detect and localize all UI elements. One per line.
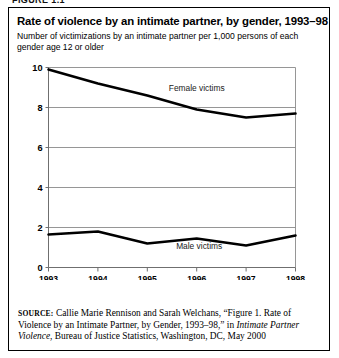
figure-number-header: FIGURE 1.1 [12, 0, 65, 3]
x-tick-label: 1998 [286, 274, 305, 280]
x-tick-label: 1994 [88, 274, 107, 280]
x-tick-label: 1993 [39, 274, 58, 280]
chart-plot-area: 0246810 199319941995199619971998 Female … [18, 58, 318, 280]
y-tick-label: 0 [37, 263, 42, 273]
chart-series-group [49, 70, 296, 246]
x-tick-label: 1996 [187, 274, 206, 280]
x-tick-label: 1995 [138, 274, 157, 280]
chart-title: Rate of violence by an intimate partner,… [17, 14, 321, 28]
y-tick-label: 2 [37, 223, 42, 233]
chart-x-axis: 199319941995199619971998 [39, 268, 305, 281]
chart-subtitle: Number of victimizations by an intimate … [17, 31, 307, 53]
y-tick-label: 4 [37, 183, 43, 193]
series-annotation: Female victims [169, 83, 225, 93]
chart-gridlines [49, 68, 296, 268]
figure-box: Rate of violence by an intimate partner,… [8, 7, 330, 351]
source-note: source: Callie Marie Rennison and Sarah … [18, 308, 319, 343]
x-tick-label: 1997 [237, 274, 256, 280]
figure-page: FIGURE 1.1 Rate of violence by an intima… [0, 0, 339, 358]
y-tick-label: 10 [32, 63, 42, 73]
y-tick-label: 6 [37, 143, 42, 153]
series-line-female-victims [49, 70, 296, 118]
chart-y-axis: 0246810 [32, 63, 48, 273]
line-chart-svg: 0246810 199319941995199619971998 Female … [18, 58, 318, 280]
y-tick-label: 8 [37, 103, 42, 113]
source-text-part2: , Bureau of Justice Statistics, Washingt… [50, 331, 266, 341]
figure-inner: Rate of violence by an intimate partner,… [9, 8, 329, 350]
series-line-male-victims [49, 232, 296, 246]
series-annotation: Male victims [176, 241, 222, 251]
source-kicker: source: [18, 309, 54, 318]
